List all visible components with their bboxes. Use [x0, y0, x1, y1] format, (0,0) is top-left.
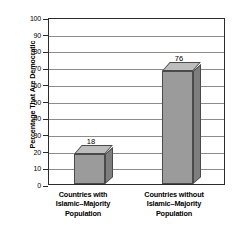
bar-front-face — [74, 154, 105, 184]
y-tick-label-50: 50 — [1, 99, 41, 106]
x-category-label-1: Countries with Islamic–Majority Populati… — [42, 190, 124, 218]
x-category-label-2-line-3: Population — [128, 209, 220, 218]
bar-front-face — [162, 71, 193, 184]
x-category-label-2-line-1: Countries without — [128, 190, 220, 199]
x-category-label-2-line-2: Islamic–Majority — [128, 199, 220, 208]
y-tick-mark-0 — [43, 186, 48, 187]
y-tick-label-20: 20 — [1, 149, 41, 156]
bar-side-face — [105, 147, 113, 184]
y-tick-label-60: 60 — [1, 82, 41, 89]
bar-countries-without-islamic-majority[interactable] — [162, 19, 202, 184]
x-category-label-2: Countries without Islamic–Majority Popul… — [128, 190, 220, 218]
y-tick-label-40: 40 — [1, 115, 41, 122]
x-category-label-1-line-3: Population — [42, 209, 124, 218]
y-tick-label-70: 70 — [1, 65, 41, 72]
bar-value-label-2: 76 — [154, 55, 204, 63]
bar-chart: Percentage That Are Democratic 100 90 80… — [0, 0, 240, 235]
plot-area — [48, 18, 225, 185]
y-tick-label-90: 90 — [1, 32, 41, 39]
bar-side-face — [193, 64, 201, 184]
y-tick-label-10: 10 — [1, 165, 41, 172]
y-tick-label-100: 100 — [1, 15, 41, 22]
y-tick-label-30: 30 — [1, 132, 41, 139]
bar-value-label-1: 18 — [66, 138, 116, 146]
x-category-label-1-line-1: Countries with — [42, 190, 124, 199]
x-category-label-1-line-2: Islamic–Majority — [42, 199, 124, 208]
y-tick-label-0: 0 — [1, 182, 41, 189]
bar-countries-with-islamic-majority[interactable] — [74, 19, 114, 184]
y-tick-label-80: 80 — [1, 48, 41, 55]
